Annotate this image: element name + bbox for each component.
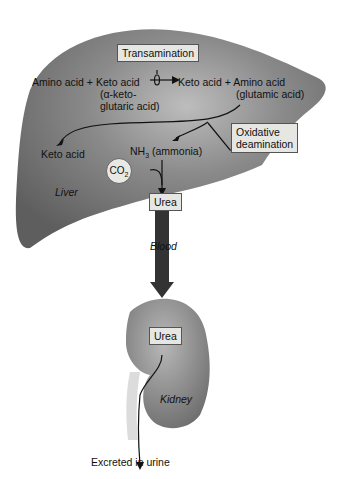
co2-sub: 2 xyxy=(125,171,129,178)
urea-kidney-box: Urea xyxy=(149,327,182,345)
nh3-text: NH xyxy=(130,145,145,157)
transamination-box: Transamination xyxy=(117,44,199,62)
blood-label: Blood xyxy=(150,240,177,252)
reactants-label: Amino acid + Keto acid xyxy=(32,76,140,88)
co2-circle: CO2 xyxy=(106,158,132,184)
ammonia-text: (ammonia) xyxy=(149,145,202,157)
kidney-label: Kidney xyxy=(160,393,192,405)
oxidative-line-1: Oxidative xyxy=(236,126,293,138)
nh3-label: NH3 (ammonia) xyxy=(130,145,202,162)
urea-liver-box: Urea xyxy=(149,193,182,211)
reactant-note-1: (α-keto- xyxy=(100,88,136,100)
liver-label: Liver xyxy=(55,186,78,198)
co2-text: CO xyxy=(110,165,125,176)
product-note: (glutamic acid) xyxy=(236,88,304,100)
products-label: Keto acid + Amino acid xyxy=(178,76,285,88)
oxidative-deamination-box: Oxidative deamination xyxy=(231,123,298,153)
keto-acid-label: Keto acid xyxy=(41,148,85,160)
excreted-label: Excreted in urine xyxy=(91,456,170,468)
oxidative-line-2: deamination xyxy=(236,138,293,150)
blood-arrow-head xyxy=(150,282,174,298)
reactant-note-2: glutaric acid) xyxy=(100,100,160,112)
